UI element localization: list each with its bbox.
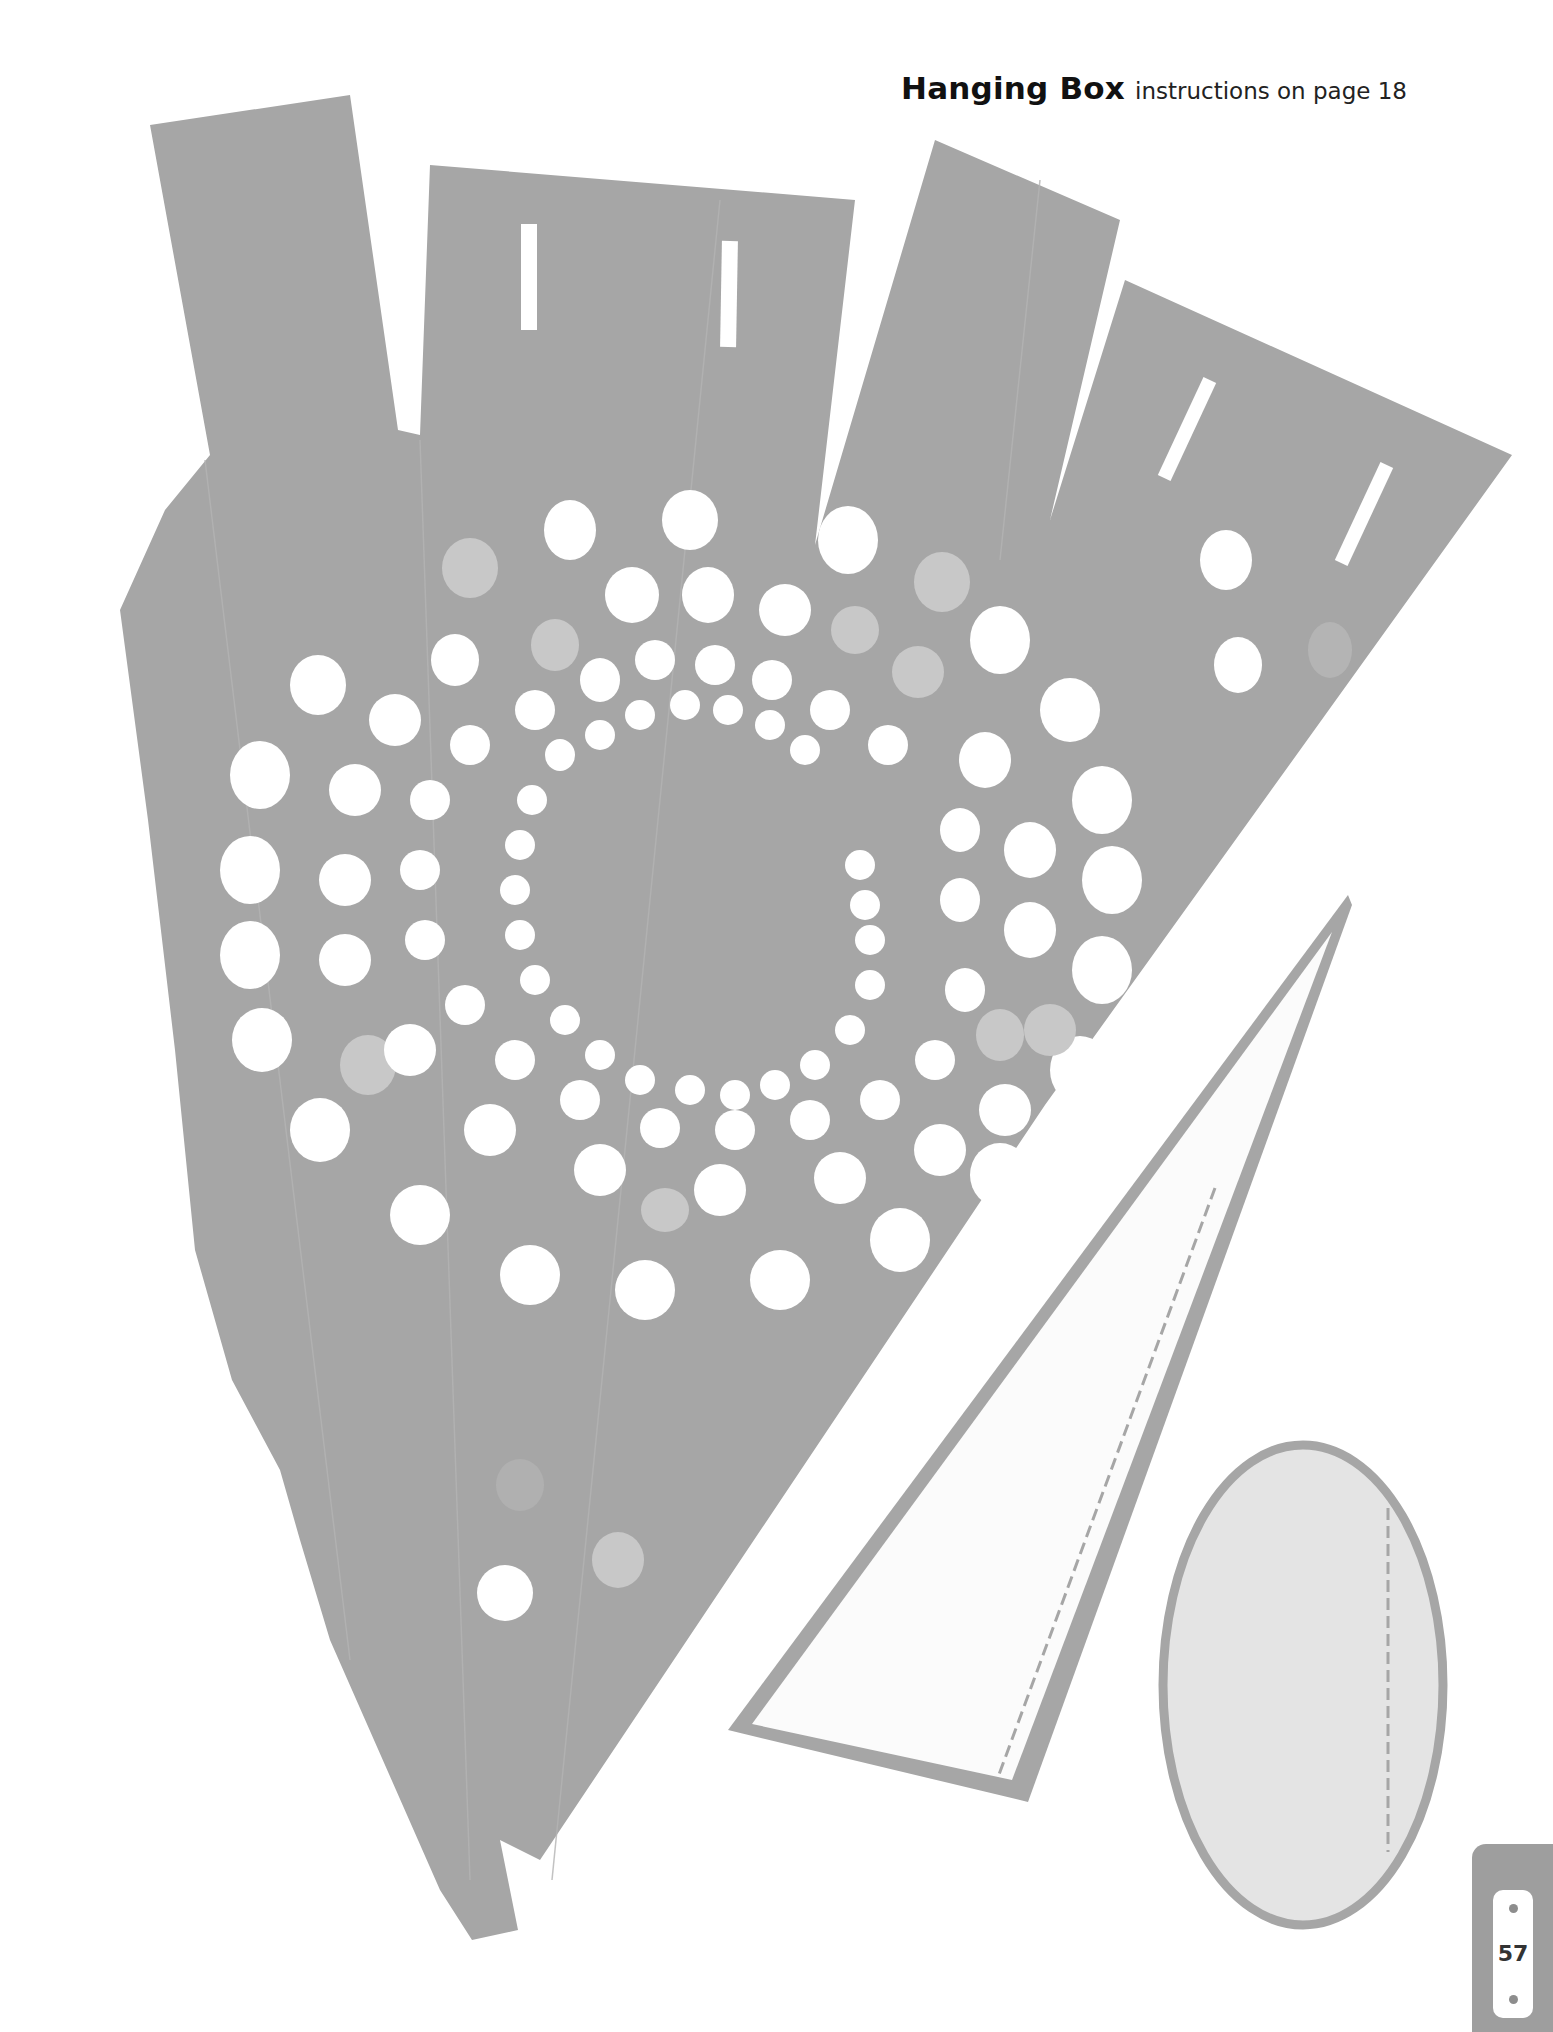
template-artwork <box>0 0 1553 2032</box>
page-tab-inner: 57 <box>1493 1890 1533 2018</box>
tab-dot-icon <box>1509 1904 1518 1913</box>
tab-dot-icon <box>1509 1995 1518 2004</box>
oval-base-piece <box>1163 1445 1443 1925</box>
page-number: 57 <box>1498 1943 1529 1965</box>
page-tab: 57 <box>1472 1844 1553 2032</box>
slot-2 <box>720 241 738 347</box>
slot-1 <box>521 224 537 330</box>
oval-shape <box>1163 1445 1443 1925</box>
